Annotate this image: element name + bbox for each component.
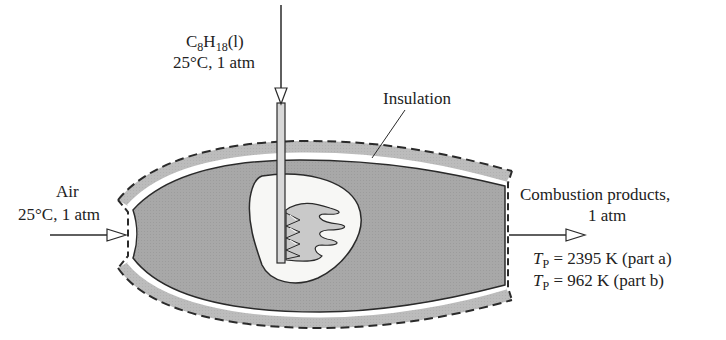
temp-part-b-label: TP = 962 K (part b) [533, 271, 664, 293]
products-label: Combustion products, [520, 185, 670, 204]
products-outlet-arrow [509, 229, 585, 241]
combustion-chamber-diagram: C8H18(l) 25°C, 1 atm Air 25°C, 1 atm Ins… [0, 0, 726, 340]
air-label: Air [56, 182, 79, 201]
fuel-pipe [277, 103, 285, 263]
air-conditions-label: 25°C, 1 atm [18, 205, 100, 224]
fuel-conditions-label: 25°C, 1 atm [173, 53, 255, 72]
fuel-species-label: C8H18(l) [186, 32, 244, 54]
air-inlet-arrow [50, 229, 126, 241]
fuel-injector [275, 5, 287, 263]
insulation-label: Insulation [383, 89, 451, 108]
products-pressure-label: 1 atm [588, 206, 626, 225]
temp-part-a-label: TP = 2395 K (part a) [533, 249, 672, 271]
fuel-arrow-head [275, 88, 287, 104]
